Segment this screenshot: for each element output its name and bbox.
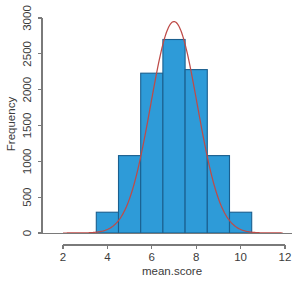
histogram-bar — [119, 156, 141, 233]
x-axis-tick-label: 10 — [234, 251, 247, 263]
y-axis-tick-label: 2500 — [21, 41, 33, 67]
chart-canvas: 050010001500200025003000 24681012 mean.s… — [0, 0, 302, 284]
histogram-bar — [163, 40, 185, 234]
x-axis-tick-label: 4 — [104, 251, 111, 263]
x-axis-tick-label: 2 — [60, 251, 66, 263]
y-axis-tick-label: 0 — [21, 230, 33, 236]
histogram-figure: 050010001500200025003000 24681012 mean.s… — [0, 0, 302, 284]
x-axis-tick-label: 6 — [149, 251, 155, 263]
y-axis-tick-label: 500 — [21, 188, 33, 207]
x-axis-tick-label: 8 — [193, 251, 199, 263]
x-axis-title: mean.score — [142, 265, 202, 277]
histogram-bar — [185, 70, 207, 233]
y-axis-tick-label: 1500 — [21, 113, 33, 139]
histogram-bar — [207, 156, 229, 233]
y-axis-title: Frequency — [5, 97, 17, 152]
y-axis-tick-label: 3000 — [21, 5, 33, 31]
y-axis-tick-label: 2000 — [21, 77, 33, 103]
y-axis-tick-label: 1000 — [21, 149, 33, 175]
x-axis-tick-label: 12 — [279, 251, 292, 263]
